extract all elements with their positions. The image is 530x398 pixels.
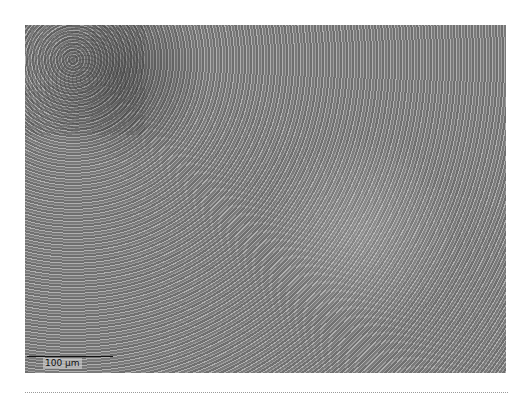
- scale-bar-line: [27, 356, 113, 357]
- dotted-divider: [25, 392, 508, 393]
- dense-cell-region: [25, 25, 145, 135]
- scale-bar-label: 100 µm: [43, 358, 82, 369]
- micrograph-image: 100 µm: [25, 25, 506, 373]
- scale-bar: 100 µm: [27, 356, 115, 370]
